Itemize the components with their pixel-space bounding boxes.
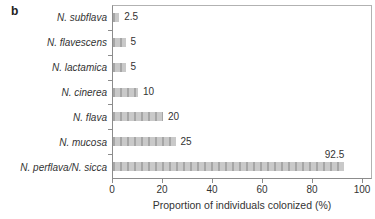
- value-label: 92.5: [325, 149, 344, 160]
- y-axis-tick: [108, 154, 112, 155]
- category-label: N. mucosa: [59, 136, 107, 147]
- category-label: N. flava: [73, 111, 107, 122]
- value-label: 10: [143, 86, 154, 97]
- x-axis-tick-label: 0: [109, 184, 115, 195]
- x-axis-tick-label: 40: [206, 184, 217, 195]
- x-axis-tick: [362, 179, 363, 183]
- value-label: 2.5: [124, 11, 138, 22]
- bar: [113, 137, 176, 146]
- bar: [113, 162, 344, 171]
- value-label: 5: [131, 61, 137, 72]
- bar: [113, 63, 126, 72]
- x-axis-tick-label: 60: [256, 184, 267, 195]
- y-axis-tick: [108, 129, 112, 130]
- value-label: 5: [131, 36, 137, 47]
- category-label: N. cinerea: [61, 87, 107, 98]
- y-axis-tick: [108, 30, 112, 31]
- bar-chart-panel: b N. subflavaN. flavescensN. lactamicaN.…: [0, 0, 375, 219]
- panel-label: b: [11, 4, 18, 18]
- bar: [113, 38, 126, 47]
- x-axis-tick-label: 80: [306, 184, 317, 195]
- x-axis-tick: [162, 179, 163, 183]
- bar: [113, 112, 163, 121]
- bar: [113, 13, 119, 22]
- value-label: 25: [181, 136, 192, 147]
- category-label: N. perflava/N. sicca: [20, 161, 107, 172]
- x-axis-tick: [312, 179, 313, 183]
- y-axis-tick: [108, 55, 112, 56]
- y-axis-tick: [108, 80, 112, 81]
- x-axis-tick: [212, 179, 213, 183]
- x-axis-tick-label: 100: [354, 184, 371, 195]
- category-label: N. subflava: [57, 12, 107, 23]
- category-label: N. flavescens: [47, 37, 107, 48]
- y-axis-tick: [108, 104, 112, 105]
- x-axis-title: Proportion of individuals colonized (%): [112, 199, 372, 211]
- bar: [113, 88, 138, 97]
- x-axis-tick-label: 20: [156, 184, 167, 195]
- x-axis-tick: [112, 179, 113, 183]
- value-label: 20: [168, 111, 179, 122]
- x-axis-tick: [262, 179, 263, 183]
- category-label: N. lactamica: [52, 62, 107, 73]
